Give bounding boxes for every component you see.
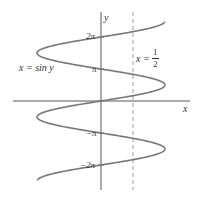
tick-label-pi: π bbox=[92, 65, 97, 74]
graph-canvas bbox=[0, 0, 197, 202]
line-label: x = 1 2 bbox=[136, 48, 159, 69]
fraction-numerator: 1 bbox=[153, 48, 158, 57]
fraction: 1 2 bbox=[152, 48, 159, 69]
tick-label-neg-2pi: −2π bbox=[80, 161, 95, 170]
y-axis-label: y bbox=[104, 13, 108, 23]
fraction-denominator: 2 bbox=[153, 60, 158, 69]
x-axis-label: x bbox=[183, 104, 187, 114]
line-label-prefix: x = bbox=[136, 54, 150, 64]
curve-label: x = sin y bbox=[19, 63, 54, 73]
tick-label-neg-pi: −π bbox=[86, 129, 97, 138]
tick-label-2pi: 2π bbox=[86, 32, 95, 41]
